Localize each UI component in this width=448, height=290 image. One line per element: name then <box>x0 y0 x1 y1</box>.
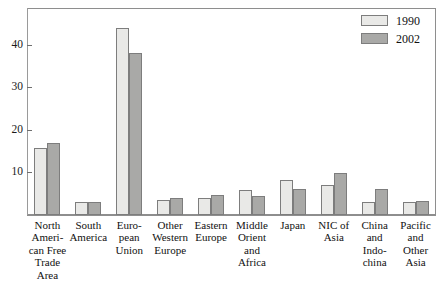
cat-label-line: North <box>35 219 61 231</box>
bar-2002-6 <box>293 189 306 215</box>
x-category-label-4: EasternEurope <box>189 219 234 244</box>
x-category-label-3: OtherWesternEurope <box>148 219 193 256</box>
cat-label-line: NIC of <box>318 219 349 231</box>
bar-2002-4 <box>211 195 224 215</box>
cat-label-line: Europe <box>195 231 227 243</box>
cat-label-line: Eastern <box>195 219 228 231</box>
x-category-label-6: Japan <box>270 219 315 231</box>
cat-label-line: Africa <box>238 256 266 268</box>
bar-1990-1 <box>75 202 88 215</box>
cat-label-line: and <box>244 244 260 256</box>
cat-label-line: Asia <box>405 256 425 268</box>
cat-label-line: Other <box>403 244 428 256</box>
cat-label-line: Other <box>158 219 183 231</box>
cat-label-line: Trade <box>35 256 60 268</box>
x-category-label-1: SouthAmerica <box>66 219 111 244</box>
bar-2002-0 <box>47 143 60 215</box>
bar-1990-5 <box>239 190 252 215</box>
cat-label-line: Western <box>152 231 188 243</box>
cat-label-line: Asia <box>324 231 344 243</box>
cat-label-line: Union <box>115 244 143 256</box>
cat-label-line: China <box>361 219 387 231</box>
x-category-label-0: NorthAmeri-can FreeTradeArea <box>25 219 70 281</box>
legend: 1990 2002 <box>361 13 431 49</box>
cat-label-line: Euro- <box>117 219 142 231</box>
x-category-label-7: NIC ofAsia <box>311 219 356 244</box>
bar-1990-9 <box>403 202 416 215</box>
cat-label-line: Ameri- <box>32 231 64 243</box>
cat-label-line: Orient <box>238 231 266 243</box>
cat-label-line: can Free <box>29 244 67 256</box>
bar-2002-5 <box>252 196 265 215</box>
cat-label-line: Europe <box>154 244 186 256</box>
bar-2002-8 <box>375 189 388 215</box>
cat-label-line: and <box>408 231 424 243</box>
bar-chart: 10203040 NorthAmeri-can FreeTradeAreaSou… <box>0 0 448 290</box>
cat-label-line: Middle <box>236 219 268 231</box>
cat-label-line: Area <box>37 269 58 281</box>
legend-swatch-1990 <box>361 15 388 26</box>
x-category-label-8: ChinaandIndo-china <box>352 219 397 269</box>
cat-label-line: china <box>363 256 387 268</box>
bar-2002-9 <box>416 201 429 215</box>
x-category-label-5: MiddleOrientandAfrica <box>230 219 275 269</box>
bar-2002-7 <box>334 173 347 215</box>
bar-1990-0 <box>34 148 47 215</box>
bar-1990-8 <box>362 202 375 215</box>
cat-label-line: Indo- <box>363 244 387 256</box>
cat-label-line: and <box>367 231 383 243</box>
bar-2002-3 <box>170 198 183 215</box>
legend-label-1990: 1990 <box>396 15 420 27</box>
cat-label-line: South <box>75 219 101 231</box>
bar-2002-2 <box>129 53 142 215</box>
bar-1990-6 <box>280 180 293 215</box>
cat-label-line: America <box>69 231 107 243</box>
bar-2002-1 <box>88 202 101 215</box>
bar-1990-4 <box>198 198 211 215</box>
bar-1990-7 <box>321 185 334 215</box>
bar-1990-2 <box>116 28 129 215</box>
bar-1990-3 <box>157 200 170 215</box>
x-category-label-9: PacificandOtherAsia <box>393 219 438 269</box>
legend-item-2002: 2002 <box>361 31 431 46</box>
x-category-label-2: Euro-peanUnion <box>107 219 152 256</box>
cat-label-line: Japan <box>280 219 305 231</box>
legend-swatch-2002 <box>361 33 388 44</box>
legend-item-1990: 1990 <box>361 13 431 28</box>
cat-label-line: Pacific <box>400 219 431 231</box>
cat-label-line: pean <box>119 231 140 243</box>
legend-label-2002: 2002 <box>396 33 420 45</box>
